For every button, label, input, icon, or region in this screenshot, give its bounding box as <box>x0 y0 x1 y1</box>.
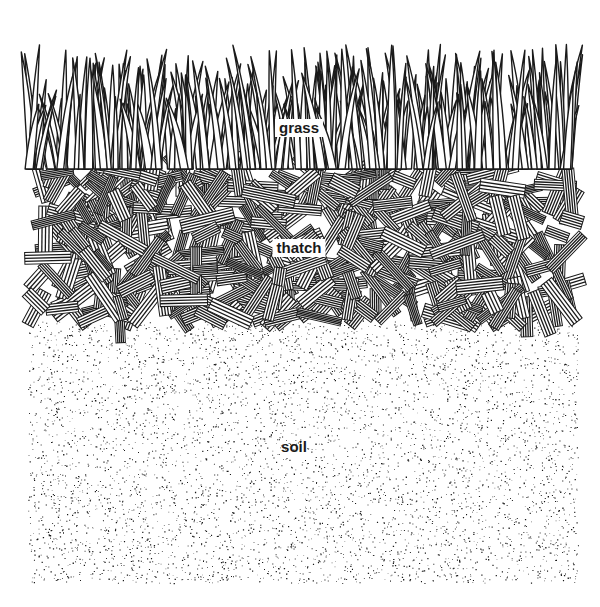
soil-label: soil <box>277 438 311 456</box>
grass-layer <box>21 45 582 170</box>
thatch-label: thatch <box>273 239 326 257</box>
grass-label: grass <box>275 119 323 137</box>
lawn-cross-section-diagram <box>0 0 600 607</box>
